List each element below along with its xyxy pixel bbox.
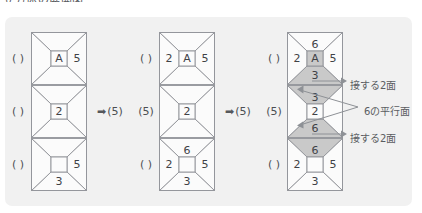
net-1-cell2-center-label: 2 <box>53 106 65 117</box>
net-3-cell1-right-label: 5 <box>327 53 339 64</box>
net-2-cell1-right-label: 5 <box>199 53 211 64</box>
anno-touching-top: 接する2面 <box>350 77 396 92</box>
net-2-cell3-right-label: 5 <box>199 159 211 170</box>
net-3-cell1-bottom-label: 3 <box>309 70 321 81</box>
nets-row: ( )( )( )5A235➡(5)( )(5)( )25A26325➡(5)(… <box>5 17 412 206</box>
right-arrow-icon: ➡ <box>97 106 106 117</box>
net-2-left-label-2: (5) <box>133 85 159 138</box>
net-3-cell2-top-label: 3 <box>309 92 321 103</box>
net-3-left-label-1: ( ) <box>261 32 287 85</box>
net-2-left-label-3: ( ) <box>133 138 159 191</box>
net-1-cell3-center-face <box>51 157 67 172</box>
net-1-left-label-3: ( ) <box>5 138 31 191</box>
net-3-left-labels: ( )(5)( ) <box>261 32 287 192</box>
net-3-cell3-center-face <box>307 157 323 172</box>
net-2-cell1-center-label: A <box>181 53 193 64</box>
net-3-cell1-left-label: 2 <box>291 53 303 64</box>
net-2-cell3-center-face <box>179 157 195 172</box>
net-1-left-label-1: ( ) <box>5 32 31 85</box>
net-2-group: ( )(5)( )25A26325 <box>133 32 215 192</box>
net-3-cell3-left-label: 2 <box>291 159 303 170</box>
net-1-group: ( )( )( )5A235 <box>5 32 87 192</box>
net-1-cell1-right-label: 5 <box>71 53 83 64</box>
net-2[interactable]: 25A26325 <box>159 32 215 192</box>
net-3-left-label-3: ( ) <box>261 138 287 191</box>
separator-2: ➡(5) <box>215 105 261 118</box>
net-3-cell2-bottom-label: 6 <box>309 123 321 134</box>
net-2-left-labels: ( )(5)( ) <box>133 32 159 192</box>
net-2-cell3-bottom-label: 3 <box>181 176 193 187</box>
net-3-cell1-top-label: 6 <box>309 39 321 50</box>
net-2-cell1-left-label: 2 <box>163 53 175 64</box>
separator-1-label: (5) <box>107 105 123 118</box>
net-3[interactable]: 6325A3626325 <box>287 32 343 192</box>
right-arrow-icon: ➡ <box>225 106 234 117</box>
net-3-cell2-center-label: 2 <box>309 106 321 117</box>
net-1-cell3-right-label: 5 <box>71 159 83 170</box>
net-3-cell3-right-label: 5 <box>327 159 339 170</box>
separator-1: ➡(5) <box>87 105 133 118</box>
net-2-left-label-1: ( ) <box>133 32 159 85</box>
clipped-heading: 立方体の展開図 <box>3 0 84 2</box>
anno-parallel-of-six: 6の平行面 <box>364 103 410 118</box>
anno-touching-bottom: 接する2面 <box>350 130 396 145</box>
net-1-cell1-center-label: A <box>53 53 65 64</box>
net-2-cell2-center-label: 2 <box>181 106 193 117</box>
net-1-left-labels: ( )( )( ) <box>5 32 31 192</box>
net-1-left-label-2: ( ) <box>5 85 31 138</box>
net-3-cell3-bottom-label: 3 <box>309 176 321 187</box>
net-3-group: ( )(5)( )6325A3626325 <box>261 32 343 192</box>
net-3-cell1-center-label: A <box>309 53 321 64</box>
net-1[interactable]: 5A235 <box>31 32 87 192</box>
separator-2-label: (5) <box>235 105 251 118</box>
net-1-cell3-bottom-label: 3 <box>53 176 65 187</box>
net-3-cell3-top-label: 6 <box>309 145 321 156</box>
net-2-cell3-left-label: 2 <box>163 159 175 170</box>
net-3-left-label-2: (5) <box>261 85 287 138</box>
net-2-cell3-top-label: 6 <box>181 145 193 156</box>
